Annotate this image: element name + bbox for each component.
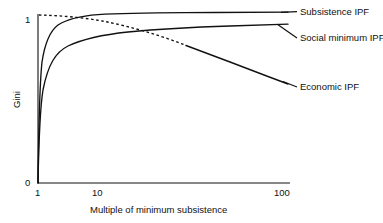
series-line-economic-ipf-solid — [186, 46, 288, 85]
x-tick-label-1: 1 — [35, 188, 40, 198]
y-axis-title: Gini — [12, 91, 22, 108]
series-label-economic-ipf: Economic IPF — [300, 82, 359, 92]
x-tick-label-10: 10 — [92, 188, 103, 198]
series-label-subsistence-ipf: Subsistence IPF — [300, 7, 369, 17]
series-line-economic-ipf-dashed — [39, 15, 186, 46]
series-line-social-minimum-ipf — [38, 24, 288, 183]
leader-line-economic-ipf — [283, 82, 297, 88]
series-label-social-minimum-ipf: Social minimum IPF — [300, 33, 383, 43]
chart-figure: 1 0 1 10 100 Gini Multiple of minimum su… — [0, 0, 383, 223]
y-tick-label-1: 1 — [25, 15, 30, 25]
x-axis-title: Multiple of minimum subsistence — [90, 205, 227, 215]
leader-line-social-minimum-ipf — [278, 25, 297, 38]
series-line-subsistence-ipf — [38, 12, 288, 183]
x-tick-label-100: 100 — [274, 188, 290, 198]
y-tick-label-0: 0 — [25, 178, 30, 188]
leader-line-subsistence-ipf — [281, 12, 297, 13]
